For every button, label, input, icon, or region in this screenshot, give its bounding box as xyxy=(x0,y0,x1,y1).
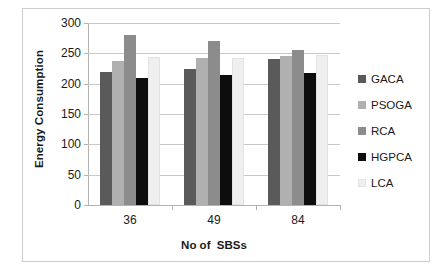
plot-area: 050100150200250300364984 xyxy=(88,23,340,205)
y-tick-label: 0 xyxy=(74,198,81,212)
y-tick-label: 200 xyxy=(61,77,81,91)
bar-psoga-36 xyxy=(112,61,124,205)
x-tick-mark xyxy=(172,205,173,210)
x-tick-mark xyxy=(340,205,341,210)
y-tick-label: 100 xyxy=(61,137,81,151)
legend-item-lca[interactable]: LCA xyxy=(358,170,428,196)
legend-item-label: RCA xyxy=(371,125,395,137)
bar-lca-36 xyxy=(148,57,160,205)
bar-rca-84 xyxy=(292,50,304,205)
legend-item-gaca[interactable]: GACA xyxy=(358,66,428,92)
y-axis-title: Energy Consumption xyxy=(33,24,45,194)
chart-canvas: Energy Consumption 050100150200250300364… xyxy=(0,0,444,279)
legend-item-label: HGPCA xyxy=(371,151,412,163)
x-tick-label: 36 xyxy=(123,213,136,227)
y-tick-label: 50 xyxy=(68,168,81,182)
legend-swatch-icon xyxy=(358,101,366,109)
legend-item-label: LCA xyxy=(371,177,393,189)
y-tick-mark xyxy=(84,53,88,54)
legend-item-psoga[interactable]: PSOGA xyxy=(358,92,428,118)
x-tick-label: 84 xyxy=(291,213,304,227)
bar-group-36 xyxy=(100,23,160,205)
bar-rca-49 xyxy=(208,41,220,205)
bar-lca-84 xyxy=(316,55,328,205)
legend-swatch-icon xyxy=(358,127,366,135)
y-tick-label: 250 xyxy=(61,46,81,60)
y-tick-label: 300 xyxy=(61,16,81,30)
y-tick-mark xyxy=(84,114,88,115)
bar-hgpca-49 xyxy=(220,75,232,205)
chart-legend: GACAPSOGARCAHGPCALCA xyxy=(358,66,428,196)
legend-swatch-icon xyxy=(358,179,366,187)
x-tick-label: 49 xyxy=(207,213,220,227)
bar-group-84 xyxy=(268,23,328,205)
bar-gaca-84 xyxy=(268,59,280,205)
bar-group-49 xyxy=(184,23,244,205)
legend-item-hgpca[interactable]: HGPCA xyxy=(358,144,428,170)
bar-gaca-36 xyxy=(100,72,112,205)
y-tick-mark xyxy=(84,84,88,85)
y-tick-mark xyxy=(84,144,88,145)
legend-item-rca[interactable]: RCA xyxy=(358,118,428,144)
legend-item-label: PSOGA xyxy=(371,99,412,111)
bar-hgpca-84 xyxy=(304,73,316,205)
legend-swatch-icon xyxy=(358,75,366,83)
legend-swatch-icon xyxy=(358,153,366,161)
x-axis-line xyxy=(88,205,340,206)
legend-item-label: GACA xyxy=(371,73,404,85)
y-tick-mark xyxy=(84,23,88,24)
y-tick-label: 150 xyxy=(61,107,81,121)
bar-psoga-84 xyxy=(280,56,292,205)
bar-lca-49 xyxy=(232,58,244,205)
x-axis-title: No of SBSs xyxy=(88,239,340,251)
bar-gaca-49 xyxy=(184,69,196,206)
x-tick-mark xyxy=(256,205,257,210)
bar-psoga-49 xyxy=(196,58,208,205)
bar-hgpca-36 xyxy=(136,78,148,205)
y-tick-mark xyxy=(84,175,88,176)
bar-rca-36 xyxy=(124,35,136,205)
